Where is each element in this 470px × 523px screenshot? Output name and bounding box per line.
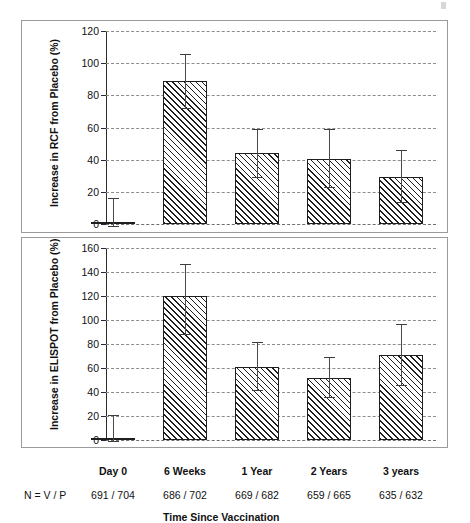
error-bar-cap-upper (396, 150, 407, 151)
error-bar (185, 54, 186, 109)
error-bar-cap-upper (324, 129, 335, 130)
gridline (106, 248, 436, 249)
error-bar-cap-lower (108, 226, 119, 227)
gridline (106, 440, 436, 441)
plot-area-elispot: 020406080100120140160 (106, 248, 436, 440)
error-bar-cap-upper (252, 342, 263, 343)
gridline (106, 128, 436, 129)
error-bar (401, 150, 402, 202)
gridline (106, 296, 436, 297)
figure: Increase in RCF from Placebo (%) 0204060… (0, 0, 470, 523)
error-bar-cap-upper (324, 357, 335, 358)
gridline (106, 63, 436, 64)
y-axis-tick-label: 60 (87, 123, 99, 133)
gridline (106, 224, 436, 225)
scan-artifact-speck (441, 2, 446, 9)
error-bar (257, 129, 258, 177)
error-bar (113, 415, 114, 441)
y-axis-tick (101, 63, 106, 64)
chart-panel-elispot: Increase in ELISPOT from Placebo (%) 020… (21, 237, 448, 448)
y-axis-tick (101, 160, 106, 161)
y-axis-tick (101, 392, 106, 393)
y-axis-tick (101, 31, 106, 32)
y-axis-tick (101, 344, 106, 345)
gridline (106, 344, 436, 345)
chart-panel-rcf: Increase in RCF from Placebo (%) 0204060… (21, 20, 448, 233)
gridline (106, 272, 436, 273)
error-bar-cap-lower (252, 177, 263, 178)
error-bar (401, 324, 402, 385)
error-bar-cap-lower (252, 390, 263, 391)
plot-area-rcf: 020406080100120 (106, 31, 436, 224)
error-bar-cap-upper (252, 129, 263, 130)
y-axis-tick (101, 95, 106, 96)
y-axis-tick (101, 296, 106, 297)
error-bar-cap-lower (180, 108, 191, 109)
y-axis-title-top: Increase in RCF from Placebo (%) (48, 39, 60, 207)
y-axis-tick-label: 40 (87, 387, 99, 397)
y-axis-tick (101, 368, 106, 369)
y-axis-tick-label: 120 (81, 291, 99, 301)
y-axis-tick-label: 80 (87, 90, 99, 100)
error-bar-cap-lower (324, 187, 335, 188)
error-bar-cap-upper (108, 415, 119, 416)
error-bar-cap-lower (108, 441, 119, 442)
error-bar-cap-lower (180, 334, 191, 335)
y-axis-tick (101, 192, 106, 193)
y-axis-tick-label: 40 (87, 155, 99, 165)
y-axis-tick-label: 120 (81, 26, 99, 36)
error-bar-cap-upper (180, 54, 191, 55)
error-bar-cap-lower (396, 202, 407, 203)
y-axis-tick (101, 224, 106, 225)
n-value: 635 / 632 (356, 489, 446, 501)
y-axis-tick-label: 20 (87, 411, 99, 421)
y-axis-tick-label: 160 (81, 243, 99, 253)
y-axis-tick (101, 248, 106, 249)
y-axis-tick (101, 320, 106, 321)
error-bar-cap-upper (108, 198, 119, 199)
y-axis-title-bottom: Increase in ELISPOT from Placebo (%) (48, 239, 60, 430)
gridline (106, 95, 436, 96)
y-axis-tick-label: 0 (93, 219, 99, 229)
x-axis-title: Time Since Vaccination (163, 511, 280, 523)
error-bar (113, 198, 114, 225)
y-axis-tick (101, 128, 106, 129)
error-bar (329, 129, 330, 187)
y-axis-tick-label: 20 (87, 187, 99, 197)
error-bar-cap-upper (180, 264, 191, 265)
error-bar (257, 342, 258, 389)
error-bar-cap-upper (396, 324, 407, 325)
y-axis-tick-label: 140 (81, 267, 99, 277)
error-bar-cap-lower (396, 385, 407, 386)
error-bar-cap-lower (324, 397, 335, 398)
y-axis-tick-label: 60 (87, 363, 99, 373)
y-axis-tick-label: 80 (87, 339, 99, 349)
y-axis-tick (101, 416, 106, 417)
y-axis-tick-label: 100 (81, 315, 99, 325)
y-axis-tick-label: 100 (81, 58, 99, 68)
y-axis-tick (101, 272, 106, 273)
n-row-key: N = V / P (24, 489, 66, 501)
gridline (106, 31, 436, 32)
x-axis-category-label: 3 years (356, 465, 446, 477)
error-bar (329, 357, 330, 397)
error-bar (185, 264, 186, 335)
gridline (106, 320, 436, 321)
